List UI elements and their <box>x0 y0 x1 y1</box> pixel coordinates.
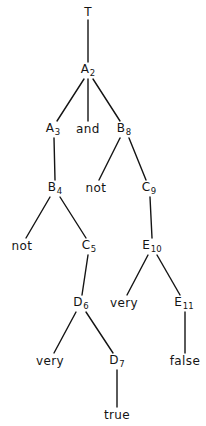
tree-node-label: E <box>174 295 182 309</box>
tree-node-label: true <box>104 408 130 422</box>
tree-edge <box>129 138 146 180</box>
tree-edge <box>54 138 55 180</box>
tree-node-subscript: 9 <box>150 186 156 196</box>
tree-edge <box>26 197 50 238</box>
tree-node-subscript: 6 <box>83 301 89 311</box>
tree-node-very2: very <box>36 355 64 367</box>
tree-node-label: D <box>73 295 83 309</box>
tree-node-label: A <box>81 62 90 76</box>
tree-node-a2: A2 <box>81 63 96 77</box>
tree-node-subscript: 8 <box>125 127 131 137</box>
tree-edge <box>60 197 86 238</box>
tree-edge <box>54 312 76 353</box>
tree-node-label: T <box>84 5 92 19</box>
tree-edge <box>127 255 148 295</box>
tree-node-d6: D6 <box>73 296 89 310</box>
tree-node-e10: E10 <box>142 239 161 253</box>
tree-node-label: very <box>110 296 138 310</box>
tree-node-label: C <box>82 238 91 252</box>
tree-node-label: D <box>109 353 119 367</box>
tree-node-very1: very <box>110 297 138 309</box>
tree-node-not1: not <box>86 182 107 194</box>
tree-node-e11: E11 <box>174 296 193 310</box>
tree-edge <box>99 138 120 180</box>
tree-node-t: T <box>84 6 92 18</box>
tree-node-not2: not <box>12 240 33 252</box>
tree-node-b8: B8 <box>117 122 132 136</box>
tree-node-subscript: 4 <box>56 186 62 196</box>
tree-node-label: B <box>117 121 126 135</box>
tree-node-c9: C9 <box>142 181 157 195</box>
tree-node-label: C <box>142 180 151 194</box>
tree-node-b4: B4 <box>48 181 63 195</box>
tree-node-label: E <box>142 238 150 252</box>
tree-node-subscript: 5 <box>90 244 96 254</box>
tree-node-a3: A3 <box>46 122 61 136</box>
tree-edge <box>57 79 84 121</box>
tree-edge <box>157 255 180 295</box>
tree-node-false: false <box>170 355 201 367</box>
tree-node-subscript: 2 <box>89 68 95 78</box>
tree-node-label: and <box>76 122 100 136</box>
tree-node-subscript: 11 <box>182 301 194 311</box>
tree-node-c5: C5 <box>82 239 97 253</box>
tree-node-subscript: 7 <box>119 359 125 369</box>
tree-node-label: very <box>36 354 64 368</box>
tree-edge <box>150 197 152 238</box>
tree-edge <box>82 255 88 295</box>
tree-node-label: B <box>48 180 57 194</box>
tree-node-label: not <box>12 239 33 253</box>
tree-node-true: true <box>104 409 130 421</box>
tree-node-label: A <box>46 121 55 135</box>
tree-node-d7: D7 <box>109 354 125 368</box>
parse-tree-figure: TA2A3andB8B4notC9notC5E10D6veryE11veryD7… <box>0 0 206 426</box>
tree-node-subscript: 3 <box>54 127 60 137</box>
tree-edge <box>93 79 120 121</box>
tree-node-label: false <box>170 354 201 368</box>
tree-node-and: and <box>76 123 100 135</box>
tree-node-subscript: 10 <box>150 244 162 254</box>
tree-node-label: not <box>86 181 107 195</box>
tree-edge <box>86 312 113 353</box>
